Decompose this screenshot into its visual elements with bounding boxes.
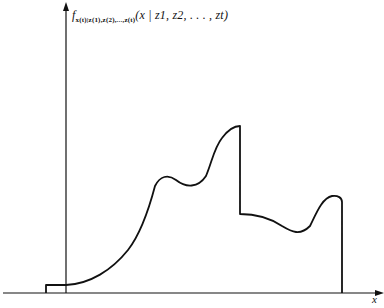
y-axis-label: fx(t)|z(1),z(2),...,z(t)(x | z1, z2, . .… [72,8,228,24]
density-curve [46,126,342,293]
y-label-subscript: x(t)|z(1),z(2),...,z(t) [76,16,136,24]
y-axis-arrow-icon [63,2,69,11]
density-diagram [0,0,384,308]
x-axis-label: x [372,293,377,305]
y-label-args: (x | z1, z2, . . . , zt) [135,8,228,22]
x-axis [3,290,384,296]
y-axis [63,2,69,293]
